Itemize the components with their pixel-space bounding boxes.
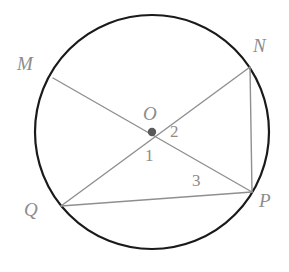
vertex-label-q: Q (24, 200, 38, 219)
segment-chord-qp (61, 192, 252, 206)
angle-label-1: 1 (145, 147, 154, 164)
angle-label-3: 3 (192, 172, 201, 189)
vertex-label-o: O (143, 104, 157, 123)
vertex-label-m: M (17, 54, 33, 73)
angle-label-2: 2 (170, 123, 179, 140)
segment-diameter-nq (61, 67, 250, 206)
center-point-dot (148, 128, 156, 136)
vertex-label-p: P (259, 191, 271, 210)
vertex-label-n: N (253, 36, 266, 55)
geometry-canvas (0, 0, 289, 272)
geometry-figure: M N O Q P 1 2 3 (0, 0, 289, 272)
segment-chord-np (250, 67, 252, 192)
